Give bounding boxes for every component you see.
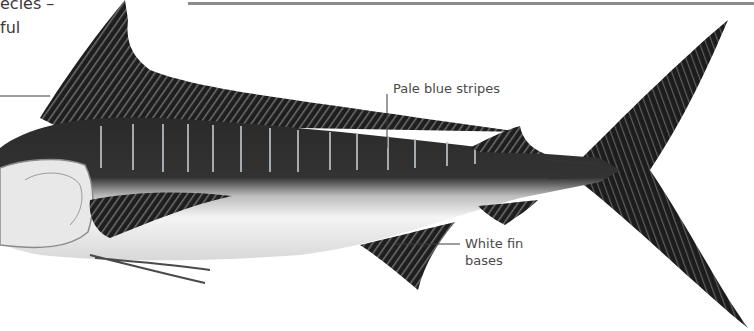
fish-body <box>0 117 620 260</box>
label-pale-blue-stripes: Pale blue stripes <box>393 80 500 97</box>
label-white-fin-bases-line2: bases <box>465 252 503 269</box>
label-white-fin-bases-line1: White fin <box>465 235 523 252</box>
gill-cover <box>0 159 93 247</box>
dorsal-fin <box>40 0 520 132</box>
marlin-illustration <box>0 0 754 331</box>
